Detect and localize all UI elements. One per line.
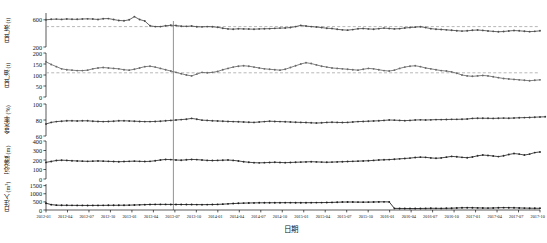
x-tick-label: 2015-04 — [316, 214, 330, 219]
data-point — [430, 68, 432, 70]
data-point — [482, 154, 484, 156]
data-point — [518, 207, 520, 209]
data-point — [206, 159, 208, 161]
data-point — [503, 207, 505, 209]
data-point — [217, 26, 219, 28]
data-point — [222, 120, 224, 122]
data-point — [362, 68, 364, 70]
data-point — [165, 120, 167, 122]
data-point — [352, 69, 354, 71]
data-point — [425, 119, 427, 121]
data-point — [367, 201, 369, 203]
data-point — [534, 79, 536, 81]
data-point — [133, 120, 135, 122]
data-point — [248, 161, 250, 163]
data-point — [159, 26, 161, 28]
data-point — [243, 202, 245, 204]
data-point — [367, 67, 369, 69]
panel-y-axis-label: 日注入 (m³) — [0, 184, 14, 210]
data-point — [440, 207, 442, 209]
data-point — [92, 204, 94, 206]
data-point — [487, 154, 489, 156]
data-point — [87, 18, 89, 20]
data-point — [139, 204, 141, 206]
data-point — [435, 28, 437, 30]
data-point — [118, 161, 120, 163]
data-point — [159, 203, 161, 205]
data-series-line — [46, 62, 540, 81]
data-point — [466, 207, 468, 209]
data-point — [300, 24, 302, 26]
data-point — [175, 25, 177, 27]
data-point — [185, 25, 187, 27]
data-point — [253, 121, 255, 123]
data-point — [97, 120, 99, 122]
data-point — [243, 28, 245, 30]
data-point — [409, 65, 411, 67]
data-point — [523, 154, 525, 156]
data-point — [466, 118, 468, 120]
data-point — [357, 28, 359, 30]
data-point — [269, 28, 271, 30]
data-point — [66, 120, 68, 122]
data-point — [326, 202, 328, 204]
data-point — [341, 29, 343, 31]
data-point — [295, 26, 297, 28]
data-point — [175, 204, 177, 206]
data-point — [45, 19, 47, 21]
y-tick-label: 1000 — [30, 190, 42, 197]
data-point — [165, 158, 167, 160]
data-point — [87, 160, 89, 162]
data-point — [196, 204, 198, 206]
data-point — [336, 28, 338, 30]
data-point — [55, 204, 57, 206]
data-point — [237, 121, 239, 123]
data-point — [76, 160, 78, 162]
data-point — [279, 202, 281, 204]
data-point — [503, 117, 505, 119]
data-point — [445, 207, 447, 209]
data-point — [258, 202, 260, 204]
data-point — [170, 119, 172, 121]
data-point — [159, 67, 161, 69]
data-point — [102, 67, 104, 69]
data-point — [456, 72, 458, 74]
data-point — [149, 204, 151, 206]
data-point — [50, 63, 52, 65]
data-point — [321, 161, 323, 163]
x-tick-label: 2017-07 — [509, 214, 523, 219]
data-point — [367, 28, 369, 30]
data-point — [414, 119, 416, 121]
data-point — [279, 27, 281, 29]
data-point — [87, 120, 89, 122]
data-point — [529, 80, 531, 82]
data-point — [497, 31, 499, 33]
data-point — [430, 157, 432, 159]
data-point — [544, 116, 546, 118]
data-point — [274, 27, 276, 29]
data-point — [206, 204, 208, 206]
data-point — [529, 153, 531, 155]
data-point — [279, 69, 281, 71]
data-point — [97, 204, 99, 206]
panel-y-axis-label: 含水率 (%) — [0, 104, 14, 136]
data-point — [61, 120, 63, 122]
data-point — [274, 120, 276, 122]
data-point — [435, 157, 437, 159]
data-point — [154, 26, 156, 28]
data-point — [50, 121, 52, 123]
data-point — [414, 26, 416, 28]
data-point — [149, 25, 151, 27]
data-point — [170, 159, 172, 161]
data-point — [139, 120, 141, 122]
data-point — [336, 161, 338, 163]
data-point — [123, 120, 125, 122]
data-point — [539, 207, 541, 209]
data-point — [196, 159, 198, 161]
x-tick-label: 2014-04 — [230, 214, 244, 219]
data-point — [305, 25, 307, 27]
data-point — [107, 120, 109, 122]
data-point — [196, 118, 198, 120]
data-series-line — [46, 152, 540, 163]
data-point — [487, 117, 489, 119]
